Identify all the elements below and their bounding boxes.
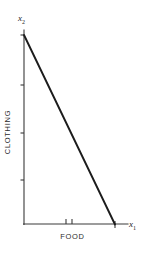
x-axis-variable-label: x1 (128, 219, 136, 231)
y-axis-category-label: CLOTHING (4, 110, 12, 154)
chart-canvas: x2 x1 (0, 0, 145, 255)
y-axis-category-label-container: CLOTHING (0, 94, 16, 170)
budget-constraint-line (24, 35, 115, 225)
x-axis-variable-subscript: 1 (133, 225, 136, 231)
budget-line-figure: x2 x1 FOOD CLOTHING (0, 0, 145, 255)
x-axis-category-label: FOOD (0, 233, 145, 241)
y-axis-variable-subscript: 2 (22, 19, 25, 25)
y-axis-variable-label: x2 (17, 13, 25, 25)
